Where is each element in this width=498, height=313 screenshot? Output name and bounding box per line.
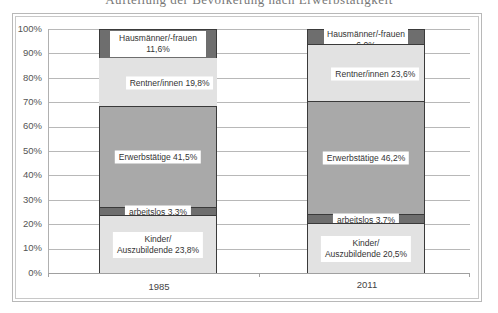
segment-hausmaenner-1985: Hausmänner/-frauen 11,6% xyxy=(99,29,217,58)
plot-area: Hausmänner/-frauen 11,6% Rentner/innen 1… xyxy=(48,29,470,273)
y-label-20: 20% xyxy=(0,218,42,229)
bar-1985: Hausmänner/-frauen 11,6% Rentner/innen 1… xyxy=(99,29,217,273)
y-label-90: 90% xyxy=(0,47,42,58)
y-label-40: 40% xyxy=(0,169,42,180)
segment-erwerbstaetige-2011: Erwerbstätige 46,2% xyxy=(307,101,425,214)
x-tick xyxy=(48,273,49,277)
segment-hausmaenner-2011: Hausmänner/-frauen 6,0% xyxy=(307,29,425,44)
segment-arbeitslos-1985: arbeitslos 3,3% xyxy=(99,207,217,215)
y-label-80: 80% xyxy=(0,72,42,83)
y-label-100: 100% xyxy=(0,23,42,34)
y-axis-line xyxy=(48,29,49,273)
data-label-erwerbstaetige-2011: Erwerbstätige 46,2% xyxy=(323,152,409,165)
x-label-1985: 1985 xyxy=(99,281,219,292)
bar-2011: Hausmänner/-frauen 6,0% Rentner/innen 23… xyxy=(307,29,425,273)
x-label-2011: 2011 xyxy=(307,279,427,290)
data-label-rentner-1985: Rentner/innen 19,8% xyxy=(126,77,214,90)
segment-kinder-2011: Kinder/ Auszubildende 20,5% xyxy=(307,223,425,273)
data-label-hausmaenner-1985: Hausmänner/-frauen 11,6% xyxy=(110,31,206,57)
data-label-erwerbstaetige-1985: Erwerbstätige 41,5% xyxy=(115,151,201,164)
x-tick xyxy=(469,273,470,277)
y-label-10: 10% xyxy=(0,242,42,253)
data-label-rentner-2011: Rentner/innen 23,6% xyxy=(331,68,419,81)
segment-rentner-2011: Rentner/innen 23,6% xyxy=(307,44,425,101)
chart-caption-clipped: Aufteilung der Bevölkerung nach Erwerbst… xyxy=(0,0,498,8)
segment-rentner-1985: Rentner/innen 19,8% xyxy=(99,58,217,106)
segment-erwerbstaetige-1985: Erwerbstätige 41,5% xyxy=(99,106,217,207)
y-label-60: 60% xyxy=(0,120,42,131)
x-tick xyxy=(259,273,260,277)
segment-arbeitslos-2011: arbeitslos 3,7% xyxy=(307,214,425,223)
data-label-kinder-1985: Kinder/ Auszubildende 23,8% xyxy=(113,232,203,258)
y-label-0: 0% xyxy=(0,267,42,278)
data-label-kinder-2011: Kinder/ Auszubildende 20,5% xyxy=(321,236,411,262)
y-label-50: 50% xyxy=(0,145,42,156)
y-label-30: 30% xyxy=(0,194,42,205)
y-label-70: 70% xyxy=(0,96,42,107)
segment-kinder-1985: Kinder/ Auszubildende 23,8% xyxy=(99,215,217,273)
